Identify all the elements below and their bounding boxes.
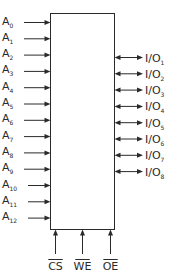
control-label-we: WE bbox=[74, 260, 92, 273]
arrow-right-icon bbox=[137, 169, 143, 174]
arrow-left-icon bbox=[115, 169, 121, 174]
io-label-2-subscript: 2 bbox=[161, 75, 165, 82]
io-pin-6: I/O6 bbox=[115, 133, 165, 147]
address-pin-a7: A7 bbox=[2, 129, 51, 143]
io-label-6-base: I/O bbox=[145, 133, 161, 146]
address-label-a5-subscript: 5 bbox=[10, 103, 14, 110]
arrow-right-icon bbox=[137, 71, 143, 76]
arrow-right-icon bbox=[45, 216, 51, 221]
io-label-8: I/O8 bbox=[145, 166, 165, 180]
arrow-right-icon bbox=[45, 150, 51, 155]
address-label-a9-subscript: 9 bbox=[10, 168, 14, 175]
data-io-lines: I/O1I/O2I/O3I/O4I/O5I/O6I/O7I/O8 bbox=[115, 52, 165, 180]
control-label-oe: OE bbox=[103, 260, 119, 273]
address-pin-a9: A9 bbox=[2, 161, 51, 175]
control-pin-oe: OE bbox=[103, 230, 119, 274]
arrow-left-icon bbox=[115, 88, 121, 93]
address-pin-a5: A5 bbox=[2, 96, 51, 110]
address-label-a2-subscript: 2 bbox=[10, 54, 14, 61]
io-label-3: I/O3 bbox=[145, 84, 165, 98]
memory-chip-diagram: A0A1A2A3A4A5A6A7A8A9A10A11A12 I/O1I/O2I/… bbox=[0, 0, 178, 279]
arrow-right-icon bbox=[45, 118, 51, 123]
arrow-right-icon bbox=[45, 102, 51, 107]
address-label-a0: A0 bbox=[2, 15, 14, 29]
io-label-6-subscript: 6 bbox=[161, 140, 165, 147]
address-label-a9: A9 bbox=[2, 161, 14, 175]
address-label-a7-subscript: 7 bbox=[10, 136, 14, 143]
io-label-4-subscript: 4 bbox=[161, 107, 165, 114]
control-label-cs: CS bbox=[48, 260, 63, 273]
arrow-right-icon bbox=[45, 53, 51, 58]
arrow-left-icon bbox=[115, 55, 121, 60]
io-label-1-subscript: 1 bbox=[161, 59, 165, 66]
arrow-left-icon bbox=[115, 71, 121, 76]
control-pin-cs: CS bbox=[48, 230, 63, 274]
arrow-right-icon bbox=[45, 85, 51, 90]
io-label-4-base: I/O bbox=[145, 100, 161, 113]
arrow-right-icon bbox=[45, 183, 51, 188]
arrow-right-icon bbox=[45, 167, 51, 172]
io-label-1: I/O1 bbox=[145, 52, 165, 66]
arrow-right-icon bbox=[137, 88, 143, 93]
arrow-right-icon bbox=[137, 55, 143, 60]
address-label-a1-subscript: 1 bbox=[10, 38, 14, 45]
control-pin-we: WE bbox=[74, 230, 92, 274]
address-pin-a4: A4 bbox=[2, 80, 51, 94]
arrow-right-icon bbox=[45, 20, 51, 25]
address-label-a3: A3 bbox=[2, 63, 14, 77]
io-pin-3: I/O3 bbox=[115, 84, 165, 98]
address-label-a10-subscript: 10 bbox=[10, 185, 18, 192]
arrow-left-icon bbox=[115, 120, 121, 125]
address-label-a10: A10 bbox=[2, 178, 17, 192]
address-pin-a8: A8 bbox=[2, 145, 51, 159]
io-pin-2: I/O2 bbox=[115, 68, 165, 82]
address-pin-a10: A10 bbox=[2, 178, 51, 192]
address-inputs: A0A1A2A3A4A5A6A7A8A9A10A11A12 bbox=[2, 15, 51, 225]
io-label-8-base: I/O bbox=[145, 166, 161, 179]
address-label-a4: A4 bbox=[2, 80, 14, 94]
io-label-3-base: I/O bbox=[145, 84, 161, 97]
arrow-right-icon bbox=[137, 120, 143, 125]
io-pin-5: I/O5 bbox=[115, 117, 165, 131]
arrow-right-icon bbox=[45, 199, 51, 204]
address-label-a11: A11 bbox=[2, 194, 17, 208]
address-label-a6-subscript: 6 bbox=[10, 119, 14, 126]
address-label-a5: A5 bbox=[2, 96, 14, 110]
arrow-right-icon bbox=[137, 153, 143, 158]
io-label-4: I/O4 bbox=[145, 100, 165, 114]
address-pin-a6: A6 bbox=[2, 112, 51, 126]
arrow-left-icon bbox=[115, 104, 121, 109]
address-label-a0-subscript: 0 bbox=[10, 22, 14, 29]
arrow-right-icon bbox=[45, 134, 51, 139]
arrow-up-icon bbox=[108, 230, 113, 236]
address-pin-a1: A1 bbox=[2, 31, 51, 45]
address-pin-a2: A2 bbox=[2, 47, 51, 61]
io-label-7-base: I/O bbox=[145, 149, 161, 162]
arrow-up-icon bbox=[53, 230, 58, 236]
io-label-8-subscript: 8 bbox=[161, 173, 165, 180]
io-pin-4: I/O4 bbox=[115, 100, 165, 114]
address-label-a12: A12 bbox=[2, 210, 17, 224]
arrow-right-icon bbox=[45, 36, 51, 41]
address-label-a3-subscript: 3 bbox=[10, 70, 14, 77]
io-label-2-base: I/O bbox=[145, 68, 161, 81]
io-label-5-base: I/O bbox=[145, 117, 161, 130]
io-pin-8: I/O8 bbox=[115, 166, 165, 180]
io-label-7: I/O7 bbox=[145, 149, 165, 163]
address-label-a8: A8 bbox=[2, 145, 14, 159]
io-label-7-subscript: 7 bbox=[161, 156, 165, 163]
arrow-right-icon bbox=[137, 104, 143, 109]
io-pin-7: I/O7 bbox=[115, 149, 165, 163]
address-pin-a12: A12 bbox=[2, 210, 51, 224]
chip-block bbox=[51, 14, 115, 230]
address-label-a6: A6 bbox=[2, 112, 14, 126]
arrow-right-icon bbox=[137, 137, 143, 142]
io-label-2: I/O2 bbox=[145, 68, 165, 82]
address-pin-a0: A0 bbox=[2, 15, 51, 29]
address-label-a11-subscript: 11 bbox=[10, 201, 18, 208]
io-label-3-subscript: 3 bbox=[161, 91, 165, 98]
address-label-a4-subscript: 4 bbox=[10, 87, 14, 94]
control-inputs: CSWEOE bbox=[48, 230, 118, 274]
address-label-a2: A2 bbox=[2, 47, 14, 61]
io-label-5: I/O5 bbox=[145, 117, 165, 131]
